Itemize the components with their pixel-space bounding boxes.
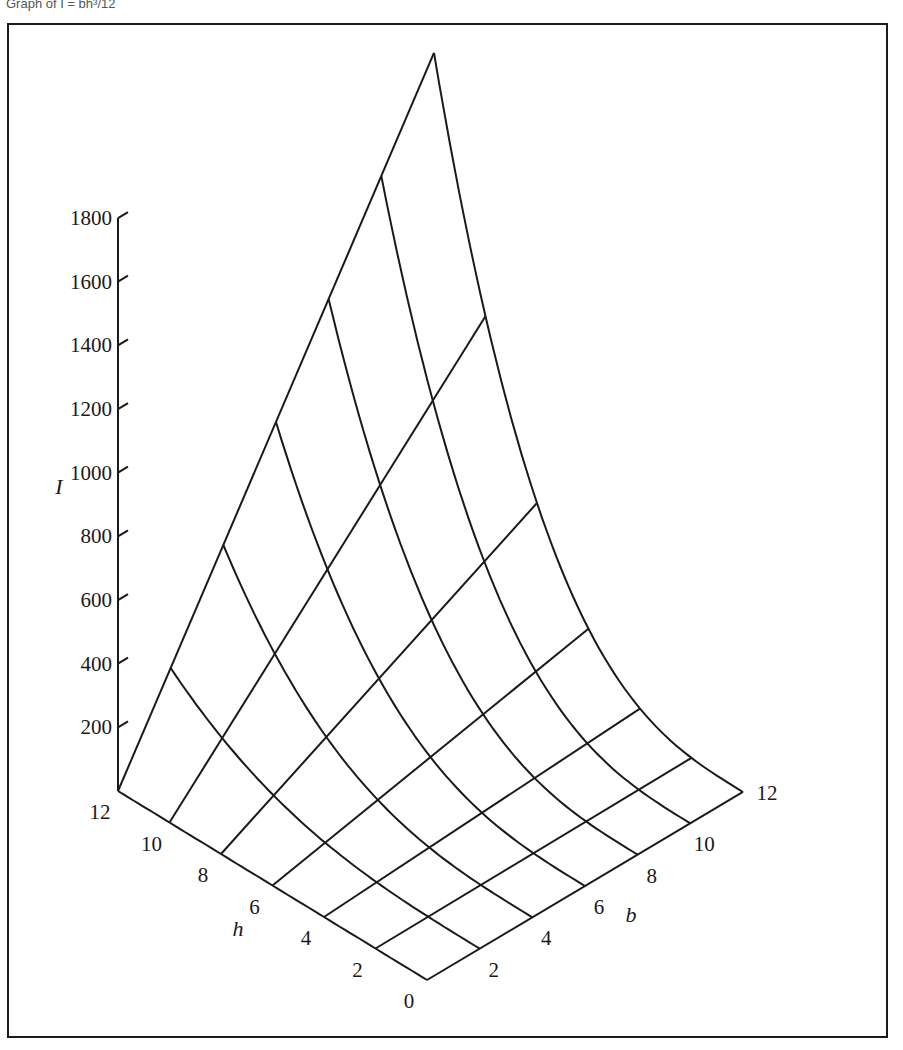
mesh-line-b-2	[171, 668, 480, 949]
z-tick	[118, 594, 128, 600]
h-tick-label: 6	[249, 895, 260, 919]
mesh-line-b-12	[434, 53, 743, 792]
mesh-line-b-6	[276, 422, 585, 886]
h-tick-label: 10	[141, 832, 162, 856]
z-tick-label: 1600	[70, 270, 112, 294]
z-tick	[118, 212, 128, 218]
b-tick-label: 6	[594, 895, 605, 919]
z-tick	[118, 403, 128, 409]
mesh-line-b-8	[329, 299, 638, 855]
z-tick-label: 1000	[70, 461, 112, 485]
mesh-line-h-12	[118, 53, 434, 791]
z-tick-label: 400	[81, 652, 113, 676]
b-tick-label: 8	[646, 864, 657, 888]
h-tick-label: 0	[404, 989, 415, 1013]
h-tick-label: 12	[90, 800, 111, 824]
z-tick-label: 200	[81, 715, 113, 739]
h-tick-label: 8	[198, 863, 209, 887]
vertical-axis	[118, 212, 128, 791]
z-tick	[118, 276, 128, 282]
mesh-line-b-4	[223, 545, 532, 917]
z-tick	[118, 658, 128, 664]
axis-labels: 20040060080010001200140016001800I0246810…	[54, 206, 777, 1013]
surface-mesh	[118, 53, 743, 980]
b-tick-label: 10	[694, 832, 715, 856]
h-tick-label: 2	[352, 958, 363, 982]
z-axis-label: I	[54, 474, 64, 499]
z-tick-label: 800	[81, 524, 113, 548]
surface-plot: 20040060080010001200140016001800I0246810…	[0, 0, 903, 1050]
z-tick-label: 1400	[70, 333, 112, 357]
z-tick	[118, 339, 128, 345]
mesh-line-h-10	[170, 316, 486, 822]
z-tick-label: 1200	[70, 397, 112, 421]
z-tick	[118, 530, 128, 536]
h-tick-label: 4	[301, 926, 312, 950]
z-tick-label: 600	[81, 588, 113, 612]
z-tick	[118, 467, 128, 473]
b-tick-label: 4	[541, 926, 552, 950]
z-tick-label: 1800	[70, 206, 112, 230]
mesh-line-h-2	[376, 758, 692, 949]
b-axis-label: b	[626, 902, 637, 927]
b-tick-label: 2	[488, 958, 499, 982]
z-tick	[118, 721, 128, 727]
h-axis-label: h	[233, 916, 244, 941]
b-tick-label: 12	[756, 781, 777, 805]
